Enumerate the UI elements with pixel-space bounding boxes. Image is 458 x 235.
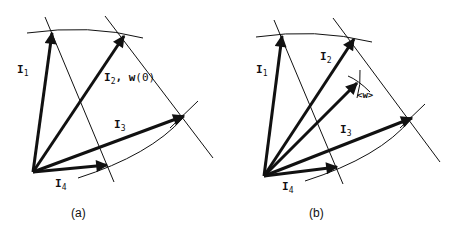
panel-a	[27, 16, 213, 182]
caption-b: (b)	[309, 206, 324, 220]
arc-bottom	[305, 119, 411, 181]
panel-b	[256, 18, 440, 184]
label-I3-a: I3	[114, 118, 125, 133]
label-w-b: <w>	[357, 90, 373, 100]
boundary-line-1	[45, 17, 114, 182]
vector-diagram	[0, 0, 458, 235]
label-I2-w0-a: I2, w(0)	[104, 71, 155, 86]
label-I1-b: I1	[256, 63, 267, 78]
boundary-line-2	[105, 16, 213, 158]
vector-I1	[33, 33, 52, 172]
caption-a: (a)	[71, 206, 86, 220]
label-I3-b: I3	[340, 123, 351, 138]
vector-I3	[264, 118, 412, 176]
label-I2-b: I2	[320, 50, 331, 65]
arc-top	[27, 29, 143, 38]
label-I1-a: I1	[17, 63, 28, 78]
vector-I3	[33, 116, 184, 172]
vector-I2	[33, 36, 124, 172]
label-I4-b: I4	[282, 180, 293, 195]
label-I4-a: I4	[55, 177, 66, 192]
tick-line	[170, 101, 198, 128]
